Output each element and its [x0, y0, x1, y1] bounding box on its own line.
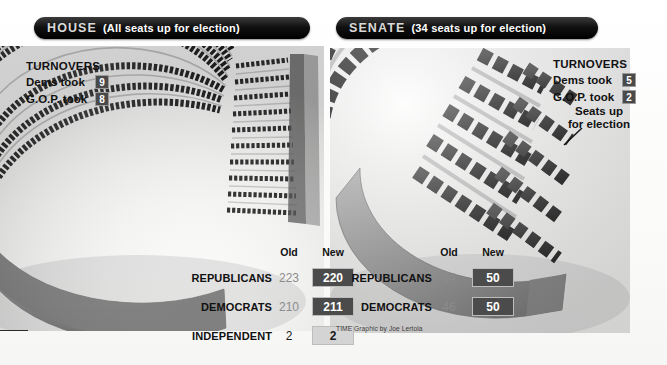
house-header-pill: HOUSE (All seats up for election) — [34, 17, 310, 39]
house-table-header: Old New — [176, 246, 354, 258]
house-turnover-label-dems: Dems took — [26, 76, 88, 88]
house-old-independent: 2 — [272, 329, 306, 343]
senate-turnover-value-gop: 2 — [622, 90, 636, 104]
seats-up-leader-line — [562, 128, 584, 146]
house-party-democrats: DEMOCRATS — [176, 301, 272, 313]
house-party-independent: INDEPENDENT — [176, 330, 272, 342]
house-turnovers-title: TURNOVERS — [26, 60, 109, 72]
house-old-republicans: 223 — [272, 271, 306, 285]
senate-new-democrats: 50 — [472, 297, 514, 316]
house-turnover-row-gop: G.O.P. took 8 — [26, 92, 109, 106]
senate-col-old: Old — [432, 246, 466, 258]
house-results-table: Old New REPUBLICANS 223 220 DEMOCRATS 21… — [176, 246, 354, 345]
senate-turnover-label-dems: Dems took — [553, 74, 615, 86]
table-row: REPUBLICANS 223 220 — [176, 268, 354, 287]
house-old-democrats: 210 — [272, 300, 306, 314]
house-turnover-value-dems: 9 — [95, 75, 109, 89]
table-row: DEMOCRATS 210 211 — [176, 297, 354, 316]
senate-old-democrats: 46 — [432, 300, 466, 314]
senate-new-republicans: 50 — [472, 268, 514, 287]
house-chamber-name: HOUSE — [47, 21, 97, 35]
house-turnovers-block: TURNOVERS Dems took 9 G.O.P. took 8 — [26, 60, 109, 106]
senate-turnovers-block: TURNOVERS Dems took 5 G.O.P. took 2 — [553, 58, 636, 104]
senate-turnover-row-gop: G.O.P. took 2 — [553, 90, 636, 104]
house-turnover-value-gop: 8 — [95, 92, 109, 106]
table-row: INDEPENDENT 2 2 — [176, 326, 354, 345]
house-col-old: Old — [272, 246, 306, 258]
table-row: REPUBLICANS 54 50 — [336, 268, 514, 287]
senate-chamber-note: (34 seats up for election) — [411, 22, 546, 34]
senate-old-republicans: 54 — [432, 271, 466, 285]
edge-rule — [0, 330, 28, 331]
graphic-credit: TIME Graphic by Joe Lertola — [336, 325, 423, 332]
senate-turnovers-title: TURNOVERS — [553, 58, 636, 70]
house-chamber-note: (All seats up for election) — [103, 22, 240, 34]
seats-up-callout: Seats up for election — [568, 105, 630, 130]
senate-col-new: New — [472, 246, 514, 258]
senate-party-democrats: DEMOCRATS — [336, 301, 432, 313]
senate-turnover-row-dems: Dems took 5 — [553, 73, 636, 87]
seats-up-line1: Seats up — [568, 105, 630, 118]
senate-chamber-name: SENATE — [349, 21, 405, 35]
senate-party-republicans: REPUBLICANS — [336, 272, 432, 284]
table-row: DEMOCRATS 46 50 — [336, 297, 514, 316]
senate-turnover-label-gop: G.O.P. took — [553, 91, 615, 103]
house-party-republicans: REPUBLICANS — [176, 272, 272, 284]
house-turnover-label-gop: G.O.P. took — [26, 93, 88, 105]
senate-header-pill: SENATE (34 seats up for election) — [336, 17, 598, 39]
house-turnover-row-dems: Dems took 9 — [26, 75, 109, 89]
senate-turnover-value-dems: 5 — [622, 73, 636, 87]
infographic-canvas: HOUSE (All seats up for election) SENATE… — [0, 0, 667, 365]
senate-results-table: Old New REPUBLICANS 54 50 DEMOCRATS 46 5… — [336, 246, 514, 316]
senate-table-header: Old New — [336, 246, 514, 258]
